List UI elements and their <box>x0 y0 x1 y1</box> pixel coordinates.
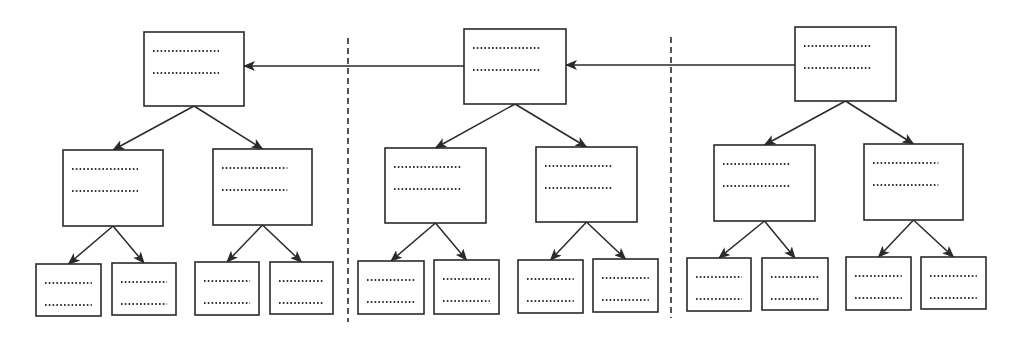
group-1-leaf-node-frame <box>270 262 333 314</box>
group-3-leaf-node <box>921 257 986 309</box>
group-2-leaf-node-frame <box>434 260 499 314</box>
group-1-leaf-node <box>270 262 333 314</box>
group-3-leaf-node-frame <box>762 258 828 310</box>
group-2-leaf-node <box>358 261 424 314</box>
group-3-root-node-frame <box>795 27 896 101</box>
group-3-child-node <box>864 144 963 220</box>
group-1-leaf-node <box>36 264 101 316</box>
tree-edge-arrow <box>113 106 194 150</box>
group-1-child-node-frame <box>213 149 312 225</box>
group-1-leaf-node-frame <box>195 262 259 315</box>
group-3-leaf-node-frame <box>846 257 911 310</box>
group-2-child-node-frame <box>385 148 486 223</box>
tree-edge-arrow <box>846 101 914 144</box>
tree-edge-arrow <box>69 226 114 264</box>
group-2-child-node-frame <box>536 147 637 222</box>
group-1-root-node-frame <box>144 32 244 106</box>
group-1-leaf-node <box>112 263 176 315</box>
tree-edge-arrow <box>227 225 263 262</box>
group-3-leaf-node <box>762 258 828 310</box>
group-1-child-node <box>63 150 163 226</box>
tree-edge-arrow <box>765 101 846 145</box>
group-3-child-node <box>714 145 815 221</box>
tree-edge-arrow <box>436 104 516 148</box>
group-3-leaf-node-frame <box>921 257 986 309</box>
group-1-leaf-node-frame <box>36 264 101 316</box>
tree-edge-arrow <box>515 104 587 147</box>
group-3-leaf-node <box>846 257 911 310</box>
box-layer <box>36 27 986 316</box>
group-3-child-node-frame <box>864 144 963 220</box>
tree-edge-arrow <box>551 222 587 260</box>
group-1-leaf-node-frame <box>112 263 176 315</box>
tree-edge-arrow <box>194 106 263 149</box>
tree-edge-arrow <box>765 221 796 258</box>
tree-edge-arrow <box>113 226 144 263</box>
group-2-leaf-node-frame <box>593 259 658 312</box>
tree-edge-arrow <box>263 225 302 262</box>
tree-edge-arrow <box>914 220 954 257</box>
group-3-child-node-frame <box>714 145 815 221</box>
group-1-child-node <box>213 149 312 225</box>
group-3-leaf-node-frame <box>687 258 751 311</box>
group-1-child-node-frame <box>63 150 163 226</box>
tree-edge-arrow <box>587 222 626 259</box>
group-2-leaf-node-frame <box>358 261 424 314</box>
group-2-root-node <box>464 29 566 104</box>
diagram-svg <box>0 0 1016 346</box>
group-2-child-node <box>385 148 486 223</box>
group-3-leaf-node <box>687 258 751 311</box>
group-2-leaf-node <box>518 260 583 313</box>
group-2-leaf-node <box>593 259 658 312</box>
tree-edge-arrow <box>436 223 467 260</box>
group-2-leaf-node <box>434 260 499 314</box>
group-2-root-node-frame <box>464 29 566 104</box>
group-1-root-node <box>144 32 244 106</box>
group-1-leaf-node <box>195 262 259 315</box>
tree-edge-arrow <box>879 220 914 257</box>
group-2-leaf-node-frame <box>518 260 583 313</box>
group-3-root-node <box>795 27 896 101</box>
tree-edge-arrow <box>719 221 765 258</box>
tree-edge-arrow <box>391 223 436 261</box>
group-2-child-node <box>536 147 637 222</box>
tree-diagram <box>0 0 1016 346</box>
